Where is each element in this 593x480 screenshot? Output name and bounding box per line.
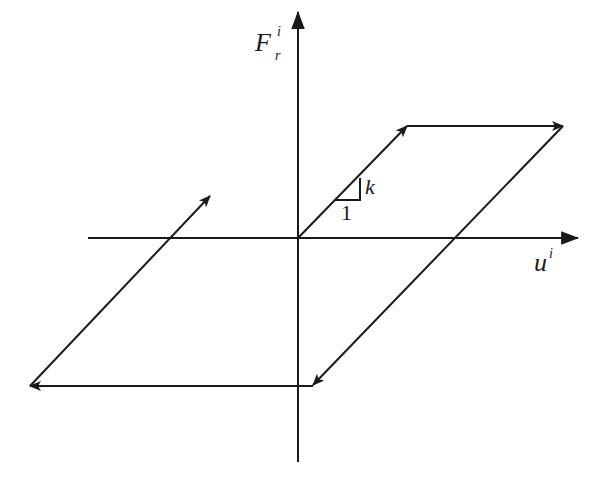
unloading-arrow <box>313 126 563 385</box>
horizontal-axis-label-superscript: i <box>549 246 553 262</box>
slope-rise-label: k <box>365 174 375 200</box>
slope-run-label: 1 <box>341 200 352 226</box>
vertical-axis-label: F i r <box>255 28 295 68</box>
vertical-axis-label-superscript: i <box>277 24 281 40</box>
hysteresis-diagram <box>0 0 593 480</box>
reloading-arrow <box>30 196 210 386</box>
vertical-axis-label-subscript: r <box>275 48 280 64</box>
vertical-axis-label-main: F <box>255 28 271 57</box>
horizontal-axis-label-main: u <box>534 248 547 277</box>
initial-loading-arrow <box>298 126 407 238</box>
horizontal-axis-label: u i <box>534 248 574 288</box>
